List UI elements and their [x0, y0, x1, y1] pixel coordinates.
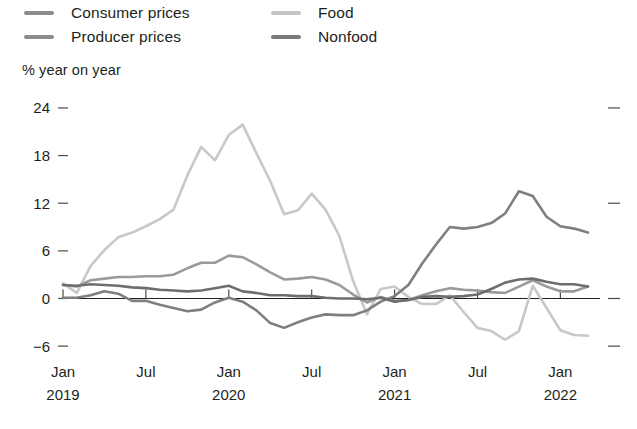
y-axis-tick-label: 24 [33, 99, 50, 116]
series-line-food [63, 125, 588, 340]
x-axis-tick-label-month: Jan [548, 363, 572, 380]
x-axis-tick-label-year: 2022 [544, 386, 577, 403]
x-axis-tick-label-month: Jul [302, 363, 321, 380]
legend-item-label: Food [318, 4, 354, 22]
chart-plot-area: 24181260−6Jan2019JulJan2020JulJan2021Jul… [0, 52, 637, 429]
legend-item[interactable]: Nonfood [271, 27, 377, 47]
legend-item[interactable]: Producer prices [24, 27, 181, 47]
legend-item-label: Producer prices [71, 28, 181, 46]
x-axis-tick-label-month: Jul [468, 363, 487, 380]
x-axis-tick-label-month: Jan [51, 363, 75, 380]
x-axis-tick-label-year: 2021 [378, 386, 411, 403]
y-axis-tick-label: 18 [33, 147, 50, 164]
legend-swatch-icon [24, 11, 54, 15]
series-line-consumer-prices [63, 256, 588, 303]
x-axis-tick-label-month: Jan [382, 363, 406, 380]
legend-swatch-icon [24, 35, 54, 39]
legend-swatch-icon [271, 35, 301, 39]
y-axis-tick-label: 0 [42, 290, 50, 307]
legend-item-label: Consumer prices [71, 4, 190, 22]
y-axis-tick-label: 12 [33, 195, 50, 212]
chart-legend: Consumer pricesProducer pricesFoodNonfoo… [0, 0, 637, 52]
x-axis-tick-label-year: 2020 [212, 386, 245, 403]
y-axis-tick-label: 6 [42, 242, 50, 259]
x-axis-tick-label-month: Jul [136, 363, 155, 380]
legend-item-label: Nonfood [318, 28, 377, 46]
legend-swatch-icon [271, 11, 301, 15]
x-axis-tick-label-month: Jan [217, 363, 241, 380]
x-axis-tick-label-year: 2019 [46, 386, 79, 403]
line-chart-svg: 24181260−6Jan2019JulJan2020JulJan2021Jul… [0, 52, 637, 429]
legend-item[interactable]: Consumer prices [24, 3, 190, 23]
y-axis-tick-label: −6 [33, 338, 50, 355]
legend-item[interactable]: Food [271, 3, 354, 23]
